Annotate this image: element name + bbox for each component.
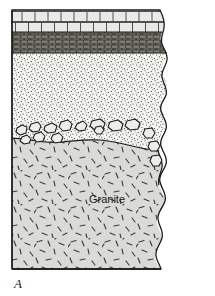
granite-unit-label: Granite <box>89 193 125 205</box>
panel-letter-label: A <box>13 276 22 291</box>
cross-section-drawing: Granite A <box>0 0 215 296</box>
geologic-cross-section-figure: Granite A <box>0 0 215 296</box>
